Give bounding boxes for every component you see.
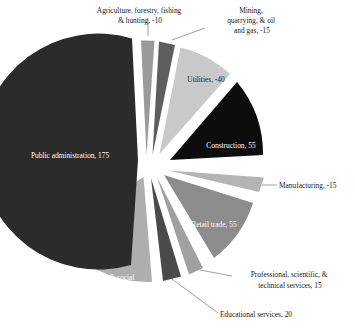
pie-label-public-administration: Public administration, 175	[31, 151, 110, 160]
pie-label-mining: Mining, quarrying, & oil and gas, -15	[227, 6, 277, 35]
pie-label-healthcare: Health care & social assistance, 65	[74, 273, 136, 293]
leader-line-educational	[172, 279, 218, 313]
pie-label-utilities: Utilities, -40	[187, 75, 225, 84]
pie-chart-figure: Agriculture, forestry, fishing & hunting…	[0, 0, 355, 335]
pie-label-construction: Construction, 55	[206, 141, 256, 150]
pie-label-professional: Professional, scientific, & technical se…	[251, 270, 330, 290]
leader-line-professional	[200, 270, 232, 276]
pie-slice-retail[interactable]	[164, 175, 253, 258]
leader-line-mining	[172, 28, 205, 40]
pie-label-retail: Retail trade, 55	[191, 220, 237, 229]
pie-slice-agriculture[interactable]	[141, 41, 155, 156]
pie-label-educational: Educational services, 20	[220, 310, 292, 319]
pie-label-manufacturing: Manufacturing, -15	[279, 181, 337, 190]
pie-chart-svg: Agriculture, forestry, fishing & hunting…	[0, 0, 355, 335]
pie-label-agriculture: Agriculture, forestry, fishing & hunting…	[97, 6, 183, 25]
